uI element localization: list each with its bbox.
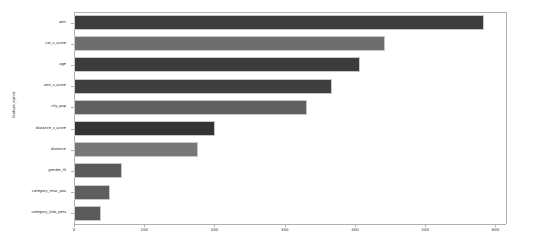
bar [74,15,484,30]
y-tick-label: city_pop [51,106,66,110]
bar-row [74,97,307,118]
bar-row [74,203,101,224]
bar-row [74,182,110,203]
bar [74,185,110,200]
plot-area [74,12,506,224]
y-tick-label: age [59,63,66,67]
x-tick-label: 200 [211,228,218,232]
y-tick-mark [71,150,74,151]
y-tick-label: amt [59,21,66,25]
bar-row [74,139,198,160]
bar-row [74,33,385,54]
y-tick-mark [71,192,74,193]
y-tick-mark [71,44,74,45]
bar [74,163,122,178]
x-tick-label: 500 [422,228,429,232]
bar-row [74,160,122,181]
x-tick-label: 300 [281,228,288,232]
x-tick-label: 600 [492,228,499,232]
y-tick-label: distance [51,148,66,152]
y-tick-label: category_misc_pos [32,190,66,194]
y-tick-mark [71,129,74,130]
bar-row [74,118,215,139]
bar-row [74,54,360,75]
x-tick-label: 400 [351,228,358,232]
bar [74,142,198,157]
chart-canvas: feature_name amtcat_z_scoreageamt_z_scor… [0,0,554,248]
y-tick-mark [71,213,74,214]
y-tick-label: category_kids_pets [32,212,66,216]
bar [74,206,101,221]
y-tick-mark [71,107,74,108]
bar-row [74,76,332,97]
y-tick-label-group: amtcat_z_scoreageamt_z_scorecity_popdist… [0,12,70,224]
y-tick-label: distance_z_score [36,127,66,131]
y-tick-mark [71,65,74,66]
bar [74,36,385,51]
bar-row [74,12,484,33]
bar [74,100,307,115]
y-tick-label: amt_z_score [44,84,66,88]
right-spine [506,12,507,224]
bar [74,57,360,72]
y-tick-label: cat_z_score [45,42,66,46]
y-tick-mark [71,23,74,24]
y-tick-label: gender_M [48,169,66,173]
bar [74,79,332,94]
y-tick-mark [71,171,74,172]
y-tick-mark [71,86,74,87]
bar [74,121,215,136]
x-tick-label: 100 [141,228,148,232]
x-tick-group: 0100200300400500600 [0,224,554,244]
x-tick-label: 0 [73,228,75,232]
